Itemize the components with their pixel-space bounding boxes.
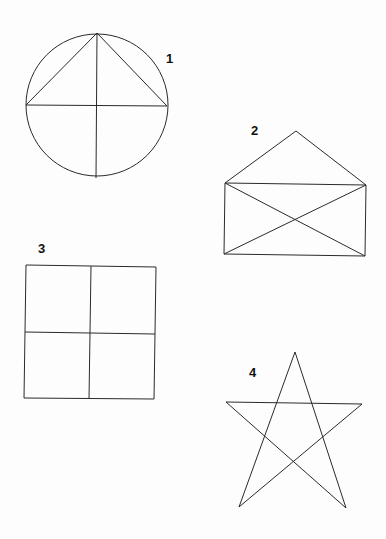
figure-3-quartered-square xyxy=(24,265,156,399)
figure-3-label: 3 xyxy=(38,242,45,255)
figure-4-label: 4 xyxy=(249,366,256,379)
diagonal-2 xyxy=(224,185,366,254)
figure-2-envelope xyxy=(224,131,366,256)
figure-1-circle-triangle xyxy=(26,33,168,178)
figure-4-star xyxy=(226,352,362,508)
figure-1-label: 1 xyxy=(166,52,173,65)
flap-right-edge xyxy=(296,131,366,185)
figure-canvas: 1 2 3 4 xyxy=(0,0,386,539)
figure-2-label: 2 xyxy=(251,124,258,137)
flap-left-edge xyxy=(225,131,296,183)
triangle-right-side xyxy=(97,33,167,106)
drawing-svg xyxy=(0,0,386,539)
pentagram xyxy=(226,352,362,508)
vertical-diameter xyxy=(96,33,97,178)
